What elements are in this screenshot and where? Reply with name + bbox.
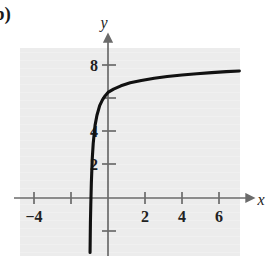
y-axis-label: y [98,14,108,32]
figure-container: b) [0,0,278,262]
plot-panel-background [20,48,240,256]
y-tick-label-8: 8 [90,57,98,74]
x-axis-label: x [256,191,264,208]
graph-svg: 8 4 2 −4 2 4 6 y x [0,0,278,262]
part-label: b) [0,4,11,23]
x-tick-label-4: 4 [178,208,186,225]
x-tick-label-6: 6 [215,208,223,225]
x-tick-label-2: 2 [141,208,149,225]
x-tick-label--4: −4 [25,208,42,225]
